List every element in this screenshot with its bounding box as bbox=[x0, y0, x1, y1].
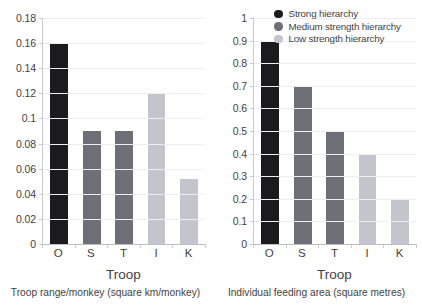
x-axis-category-label: O bbox=[42, 247, 75, 259]
legend: Strong hierarchyMedium strength hierarch… bbox=[274, 8, 422, 46]
bar-slot-i bbox=[140, 18, 172, 244]
y-axis-tick-label: 0.4 bbox=[233, 148, 247, 160]
y-axis-tick-label: 0.16 bbox=[16, 37, 36, 49]
bar-slot-s bbox=[75, 18, 107, 244]
y-axis-tick-label: 0.06 bbox=[16, 163, 36, 175]
bar-s bbox=[83, 131, 101, 244]
x-axis-tickmark bbox=[205, 244, 206, 248]
x-axis-category-label: T bbox=[107, 247, 140, 259]
y-axis-tick-label: 0.18 bbox=[16, 12, 36, 24]
x-axis-category-label: O bbox=[253, 247, 286, 259]
y-axis-tickmark bbox=[39, 169, 43, 170]
gridline bbox=[43, 68, 205, 69]
y-axis-tick-label: 0.02 bbox=[16, 213, 36, 225]
y-axis-tickmark bbox=[250, 18, 254, 19]
gridline bbox=[254, 154, 416, 155]
plot-area-left bbox=[42, 18, 205, 244]
y-axis-tickmark bbox=[250, 41, 254, 42]
y-axis-tickmark bbox=[39, 18, 43, 19]
bar-slot-k bbox=[173, 18, 205, 244]
legend-marker-circle-icon bbox=[274, 10, 283, 19]
y-axis-tick-label: 0.14 bbox=[16, 62, 36, 74]
gridline bbox=[43, 43, 205, 44]
y-axis-tick-label: 0.12 bbox=[16, 87, 36, 99]
y-axis-tick-label: 0.2 bbox=[233, 193, 247, 205]
panel-caption-right: Individual feeding area (square metres) bbox=[211, 287, 422, 298]
y-axis-tickmark bbox=[250, 108, 254, 109]
bar-t bbox=[115, 131, 133, 244]
y-axis-tick-label: 0.8 bbox=[233, 57, 247, 69]
y-axis-tick-label: 0.6 bbox=[233, 102, 247, 114]
bar-s bbox=[294, 86, 312, 244]
gridline bbox=[43, 219, 205, 220]
y-axis-tickmark bbox=[39, 219, 43, 220]
x-axis-category-label: I bbox=[140, 247, 173, 259]
legend-label: Low strength hierarchy bbox=[289, 33, 385, 44]
y-axis-tickmark bbox=[250, 63, 254, 64]
x-axis-category-label: I bbox=[351, 247, 384, 259]
legend-row: Low strength hierarchy bbox=[274, 33, 422, 45]
x-axis-category-label: K bbox=[172, 247, 205, 259]
figure-two-panel-bar-charts: 00.020.040.060.080.10.120.140.160.18 OST… bbox=[0, 0, 422, 305]
y-axis-tickmark bbox=[250, 176, 254, 177]
y-axis-tickmark bbox=[250, 154, 254, 155]
x-axis-category-label: S bbox=[286, 247, 319, 259]
legend-row: Strong hierarchy bbox=[274, 8, 422, 20]
gridline bbox=[254, 86, 416, 87]
gridline bbox=[254, 131, 416, 132]
gridline bbox=[43, 194, 205, 195]
gridline bbox=[254, 176, 416, 177]
y-axis-tickmark bbox=[250, 199, 254, 200]
x-axis-category-labels-right: OSTIK bbox=[253, 247, 416, 259]
plot-wrap-left: 00.020.040.060.080.10.120.140.160.18 OST… bbox=[0, 18, 211, 262]
gridline bbox=[43, 169, 205, 170]
y-axis-tick-label: 0.3 bbox=[233, 170, 247, 182]
y-axis-tickmark bbox=[39, 68, 43, 69]
legend-marker-circle-icon bbox=[274, 22, 283, 31]
y-axis-tick-label: 0.1 bbox=[233, 215, 247, 227]
x-axis-title-left: Troop bbox=[42, 267, 205, 282]
bar-o bbox=[261, 41, 279, 244]
legend-marker-circle-icon bbox=[274, 35, 283, 44]
y-axis-tickmark bbox=[250, 86, 254, 87]
y-axis-tick-label: 0.04 bbox=[16, 188, 36, 200]
y-axis-tickmark bbox=[250, 131, 254, 132]
plot-area-right bbox=[253, 18, 416, 244]
plot-wrap-right: 00.10.20.30.40.50.60.70.80.91 OSTIK Troo… bbox=[211, 18, 422, 262]
x-axis-tickmark bbox=[416, 244, 417, 248]
y-axis-tick-label: 0.1 bbox=[22, 112, 36, 124]
panel-caption-left: Troop range/monkey (square km/monkey) bbox=[0, 287, 211, 298]
y-axis-tickmark bbox=[39, 194, 43, 195]
legend-label: Strong hierarchy bbox=[289, 8, 358, 19]
chart-panel-troop-range: 00.020.040.060.080.10.120.140.160.18 OST… bbox=[0, 0, 211, 305]
y-axis-tick-label: 0 bbox=[30, 238, 36, 250]
y-axis-tick-label: 0 bbox=[241, 238, 247, 250]
gridline bbox=[43, 144, 205, 145]
bar-group-left bbox=[43, 18, 205, 244]
gridline bbox=[254, 199, 416, 200]
y-axis-tick-label: 0.7 bbox=[233, 80, 247, 92]
x-axis-title-right: Troop bbox=[253, 267, 416, 282]
bar-slot-o bbox=[43, 18, 75, 244]
legend-row: Medium strength hierarchy bbox=[274, 21, 422, 33]
y-axis-tick-label: 1 bbox=[241, 12, 247, 24]
y-axis-tickmark bbox=[250, 221, 254, 222]
gridline bbox=[43, 93, 205, 94]
gridline bbox=[254, 63, 416, 64]
y-axis-tick-labels-right: 00.10.20.30.40.50.60.70.80.91 bbox=[213, 18, 251, 244]
gridline bbox=[254, 221, 416, 222]
gridline bbox=[43, 118, 205, 119]
y-axis-tickmark bbox=[39, 43, 43, 44]
y-axis-tick-label: 0.9 bbox=[233, 35, 247, 47]
y-axis-tick-label: 0.08 bbox=[16, 138, 36, 150]
y-axis-tickmark bbox=[39, 144, 43, 145]
gridline bbox=[254, 108, 416, 109]
bar-t bbox=[326, 131, 344, 244]
legend-label: Medium strength hierarchy bbox=[289, 21, 401, 32]
y-axis-tick-labels-left: 00.020.040.060.080.10.120.140.160.18 bbox=[2, 18, 40, 244]
x-axis-category-labels-left: OSTIK bbox=[42, 247, 205, 259]
chart-panel-feeding-area: 00.10.20.30.40.50.60.70.80.91 OSTIK Troo… bbox=[211, 0, 422, 305]
x-axis-category-label: K bbox=[383, 247, 416, 259]
bar-k bbox=[180, 179, 198, 244]
x-axis-category-label: T bbox=[318, 247, 351, 259]
